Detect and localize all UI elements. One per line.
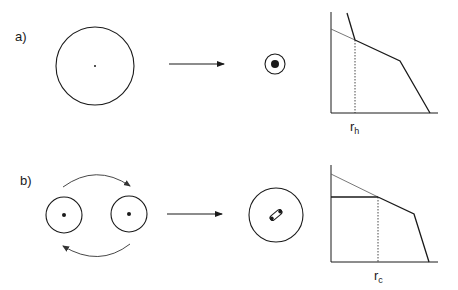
panel-a-label: a)	[15, 29, 27, 44]
profile-chart-b: rc	[331, 165, 438, 285]
panel-a: a) rh	[15, 12, 438, 136]
reference-line	[331, 29, 355, 40]
steep-profile-line	[347, 13, 355, 40]
r-c-label: rc	[374, 268, 383, 285]
large-circle-icon	[56, 27, 134, 105]
compact-core-icon	[265, 54, 285, 74]
profile-line	[378, 197, 429, 262]
profile-chart-a: rh	[331, 12, 438, 136]
diagram-canvas: a) rh b)	[0, 0, 458, 290]
orbit-arrow-bottom	[63, 244, 130, 257]
panel-b: b) rc	[20, 165, 438, 285]
binary-right-icon	[111, 196, 147, 232]
profile-line	[355, 40, 430, 113]
tight-binary-icon	[249, 188, 303, 242]
reference-line	[331, 174, 378, 197]
orbit-arrow-top	[63, 175, 130, 187]
binary-left-icon	[46, 197, 82, 233]
panel-b-label: b)	[20, 173, 32, 188]
r-h-label: rh	[350, 119, 359, 136]
